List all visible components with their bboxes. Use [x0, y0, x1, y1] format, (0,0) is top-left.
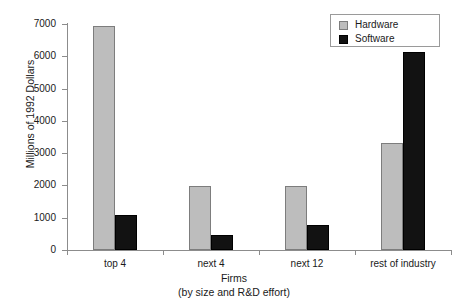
- bar-software-rest-of-industry: [403, 52, 425, 250]
- bar-software-next-12: [307, 225, 329, 250]
- legend-item-hardware: Hardware: [339, 19, 439, 31]
- y-tick-label: 6000: [18, 51, 56, 61]
- y-tick-label: 5000: [18, 84, 56, 94]
- y-tick-label: 0: [18, 245, 56, 255]
- x-tick-mark: [451, 250, 452, 255]
- plot-area: [67, 24, 451, 250]
- x-tick-mark: [163, 250, 164, 255]
- legend-item-software: Software: [339, 33, 439, 45]
- x-axis-title: Firms: [0, 272, 468, 284]
- bar-chart: Millions of 1992 Dollars 010002000300040…: [0, 0, 468, 301]
- bar-software-top-4: [115, 215, 137, 250]
- x-tick-mark: [67, 250, 68, 255]
- y-tick-label: 7000: [18, 19, 56, 29]
- legend-label-software: Software: [355, 34, 394, 44]
- bar-software-next-4: [211, 235, 233, 250]
- y-tick-label: 3000: [18, 148, 56, 158]
- x-category-label: next 4: [163, 258, 259, 269]
- x-tick-mark: [355, 250, 356, 255]
- y-tick-label: 2000: [18, 180, 56, 190]
- bar-hardware-rest-of-industry: [381, 143, 403, 251]
- legend: Hardware Software: [330, 14, 440, 47]
- x-tick-mark: [259, 250, 260, 255]
- legend-swatch-software-icon: [339, 35, 348, 44]
- x-axis-subtitle: (by size and R&D effort): [0, 286, 468, 298]
- x-category-label: top 4: [67, 258, 163, 269]
- y-tick-label: 1000: [18, 213, 56, 223]
- legend-label-hardware: Hardware: [355, 20, 398, 30]
- x-category-label: next 12: [259, 258, 355, 269]
- bar-hardware-next-12: [285, 186, 307, 250]
- x-category-label: rest of industry: [355, 258, 451, 269]
- legend-swatch-hardware-icon: [339, 21, 348, 30]
- bar-hardware-top-4: [93, 26, 115, 250]
- y-tick-label: 4000: [18, 116, 56, 126]
- bar-hardware-next-4: [189, 186, 211, 250]
